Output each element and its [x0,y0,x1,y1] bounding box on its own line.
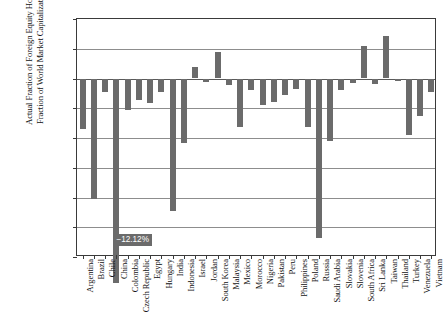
bar-chile [102,79,108,92]
bar-vietnam [428,79,434,92]
x-axis-label-south-africa: South Africa [366,259,376,333]
bar-egypt [147,79,153,103]
x-axis-label-slovenia: Slovenia [355,259,365,333]
x-axis-label-poland: Poland [310,259,320,333]
x-axis-label-pakistan: Pakistan [276,259,286,333]
bar-indonesia [181,79,187,143]
x-axis-label-sri-lanka: Sri Lanka [377,259,387,333]
bar-israel [192,67,198,79]
y-axis-title-line-1: Actual Fraction of Foreign Equity Holdin… [24,0,35,125]
x-axis-label-egypt: Egypt [152,259,162,333]
bar-mexico [237,79,243,128]
bar-series [77,19,435,255]
bar-brazil [91,79,97,200]
x-axis-label-mexico: Mexico [242,259,252,333]
bar-saudi-arabia [327,79,333,141]
y-axis-title: Actual Fraction of Foreign Equity Holdin… [14,0,56,166]
x-axis-label-israel: Israel [197,259,207,333]
x-axis-label-russia: Russia [321,259,331,333]
bar-data-label-china: −12.12% [113,234,152,246]
bar-sri-lanka [372,79,378,85]
x-axis-label-philippines: Philippines [299,259,309,333]
x-axis-label-china: China [119,259,129,333]
bar-thailand [395,79,401,81]
x-axis-label-jordan: Jordan [209,259,219,333]
bar-venezuela [417,79,423,116]
bar-colombia [125,79,131,111]
bar-czech-republic [136,79,142,100]
bar-poland [305,79,311,128]
chart-figure: Actual Fraction of Foreign Equity Holdin… [0,0,446,333]
x-axis-label-chile: Chile [107,259,117,333]
bar-india [170,79,176,212]
bar-peru [282,79,288,96]
x-axis-label-turkey: Turkey [411,259,421,333]
x-axis-label-peru: Peru [287,259,297,333]
x-axis-label-india: India [175,259,185,333]
x-axis-label-colombia: Colombia [130,259,140,333]
bar-slovenia [350,79,356,84]
bar-turkey [406,79,412,136]
bar-philippines [293,79,299,89]
bar-argentina [80,79,86,130]
x-axis-labels: ArgentinaBrazilChileChinaColombiaCzech R… [76,259,436,333]
x-axis-label-slovakia: Slovakia [344,259,354,333]
bar-slovakia [338,79,344,90]
x-axis-label-venezuela: Venezuela [422,259,432,333]
bar-china [113,79,119,284]
x-axis-label-saudi-arabia: Saudi Arabia [332,259,342,333]
x-axis-label-czech-republic: Czech Republic [141,259,151,333]
bar-russia [316,79,322,238]
x-axis-label-taiwan: Taiwan [389,259,399,333]
x-axis-label-south-korea: South Korea [220,259,230,333]
y-axis-tick-mark [73,257,77,258]
x-axis-label-brazil: Brazil [96,259,106,333]
bar-malaysia [226,79,232,86]
x-axis-label-indonesia: Indonesia [186,259,196,333]
x-axis-label-vietnam: Vietnam [434,259,444,333]
bar-morocco [248,79,254,90]
bar-south-africa [361,46,367,78]
x-axis-label-argentina: Argentina [85,259,95,333]
x-axis-label-thailand: Thailand [400,259,410,333]
x-axis-label-morocco: Morocco [254,259,264,333]
x-axis-label-malaysia: Malaysia [231,259,241,333]
bar-south-korea [215,52,221,79]
bar-taiwan [383,36,389,79]
bar-pakistan [271,79,277,102]
bar-nigeria [260,79,266,106]
x-axis-label-hungary: Hungary [164,259,174,333]
plot-area: 1.0%0.5%0.0%−0.5%−1.0%−1.5%−2.0%−2.5%−3.… [76,18,436,256]
bar-hungary [158,79,164,93]
x-axis-label-nigeria: Nigeria [265,259,275,333]
y-axis-title-line-2: Fraction of World Market Capitalization … [35,0,46,125]
bar-jordan [203,79,209,83]
